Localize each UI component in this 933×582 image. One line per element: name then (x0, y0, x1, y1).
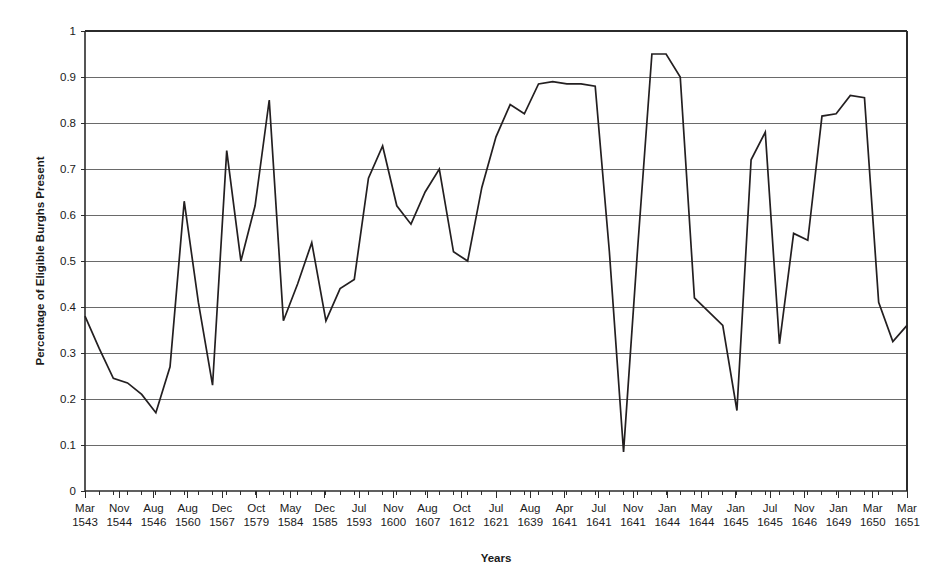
y-tick-label: 0 (70, 485, 76, 497)
x-tick-label-year: 1579 (243, 516, 269, 528)
x-tick-label-year: 1650 (860, 516, 886, 528)
x-tick-label-year: 1645 (757, 516, 783, 528)
x-tick-label-year: 1641 (552, 516, 578, 528)
x-tick-label-year: 1651 (894, 516, 920, 528)
y-tick-label: 0.2 (60, 393, 76, 405)
data-series-line (85, 54, 907, 452)
x-tick-label-year: 1584 (278, 516, 304, 528)
x-tick-label-year: 1641 (586, 516, 612, 528)
y-tick-label: 0.7 (60, 163, 76, 175)
x-tick-label-year: 1649 (826, 516, 852, 528)
x-tick-label-year: 1644 (654, 516, 680, 528)
y-tick-label: 0.5 (60, 255, 76, 267)
x-axis-ticks (85, 491, 907, 498)
y-tick-label: 0.9 (60, 71, 76, 83)
x-axis-title: Years (481, 552, 512, 564)
x-tick-label-month: Oct (247, 502, 266, 514)
y-tick-label: 0.6 (60, 209, 76, 221)
x-tick-label-month: Nov (109, 502, 130, 514)
x-tick-label-year: 1621 (483, 516, 509, 528)
x-tick-label-month: Jan (658, 502, 677, 514)
x-tick-label-year: 1567 (209, 516, 235, 528)
x-tick-label-month: Dec (315, 502, 336, 514)
y-tick-label: 1 (70, 25, 76, 37)
x-tick-label-year: 1607 (415, 516, 441, 528)
x-tick-label-year: 1593 (346, 516, 372, 528)
x-tick-label-month: Aug (520, 502, 540, 514)
x-tick-label-year: 1600 (380, 516, 406, 528)
x-tick-label-month: Nov (623, 502, 644, 514)
x-tick-label-month: Jul (352, 502, 367, 514)
y-tick-label: 0.8 (60, 117, 76, 129)
x-tick-label-month: May (691, 502, 713, 514)
x-tick-label-month: May (280, 502, 302, 514)
x-tick-label-month: Apr (556, 502, 574, 514)
x-tick-label-month: Dec (212, 502, 233, 514)
y-tick-label: 0.4 (60, 301, 77, 313)
x-tick-label-month: Jul (591, 502, 606, 514)
x-tick-label-month: Nov (794, 502, 815, 514)
x-axis-tick-labels: Mar1543Nov1544Aug1546Aug1560Dec1567Oct15… (72, 502, 920, 528)
x-tick-label-year: 1641 (620, 516, 646, 528)
y-axis-title: Percentage of Eligible Burghs Present (34, 156, 46, 365)
x-tick-label-year: 1639 (517, 516, 543, 528)
x-tick-label-month: Aug (143, 502, 163, 514)
x-tick-label-month: Nov (383, 502, 404, 514)
x-tick-label-month: Mar (75, 502, 95, 514)
x-tick-label-year: 1560 (175, 516, 201, 528)
x-tick-label-year: 1585 (312, 516, 338, 528)
x-tick-label-year: 1544 (106, 516, 132, 528)
x-tick-label-month: Aug (417, 502, 437, 514)
x-tick-label-year: 1612 (449, 516, 475, 528)
x-tick-label-year: 1644 (689, 516, 715, 528)
x-tick-label-year: 1646 (791, 516, 817, 528)
x-tick-label-month: Mar (863, 502, 883, 514)
x-tick-label-year: 1543 (72, 516, 98, 528)
x-tick-label-month: Jul (763, 502, 778, 514)
x-tick-label-year: 1645 (723, 516, 749, 528)
y-tick-label: 0.3 (60, 347, 76, 359)
x-tick-label-month: Oct (453, 502, 472, 514)
y-tick-label: 0.1 (60, 439, 76, 451)
x-tick-label-year: 1546 (141, 516, 167, 528)
x-tick-label-month: Mar (897, 502, 917, 514)
x-tick-label-month: Aug (178, 502, 198, 514)
x-tick-label-month: Jul (489, 502, 504, 514)
x-tick-label-month: Jan (726, 502, 745, 514)
gridlines-group (85, 31, 907, 445)
line-chart: 00.10.20.30.40.50.60.70.80.91 Mar1543Nov… (0, 0, 933, 582)
y-axis-tick-labels: 00.10.20.30.40.50.60.70.80.91 (60, 25, 77, 497)
x-tick-label-month: Jan (829, 502, 848, 514)
chart-container: 00.10.20.30.40.50.60.70.80.91 Mar1543Nov… (0, 0, 933, 582)
